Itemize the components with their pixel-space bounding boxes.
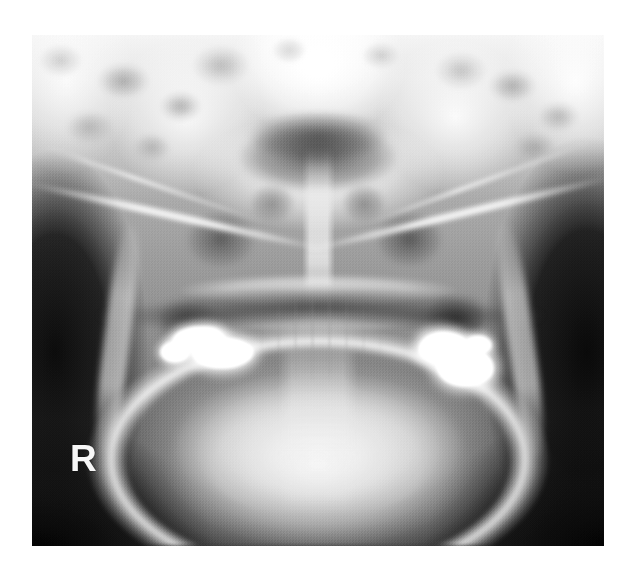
dental-restoration-left-lower xyxy=(192,337,254,369)
side-marker-r: R xyxy=(70,440,97,477)
mandibular-ramus-right xyxy=(492,222,550,458)
mandibular-ramus-left xyxy=(90,224,144,455)
zygomatic-arch-right xyxy=(308,175,604,253)
dental-restoration-right-lower xyxy=(436,347,494,387)
radiograph-image: R xyxy=(32,35,604,546)
page-root: R xyxy=(0,0,633,576)
